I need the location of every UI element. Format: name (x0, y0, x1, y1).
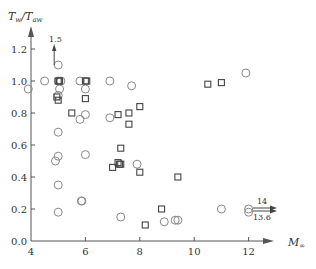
arrow-up-icon (52, 44, 56, 51)
x-tick-label: 6 (82, 246, 88, 257)
circle-marker (54, 128, 62, 136)
x-axis (31, 238, 274, 244)
circle-marker (106, 114, 114, 122)
y-tick-label: 0.8 (11, 108, 27, 119)
circle-marker (242, 69, 250, 77)
square-marker (118, 145, 124, 151)
y-axis-arrow-icon (28, 26, 34, 37)
circle-marker (128, 82, 136, 90)
circle-marker (81, 85, 89, 93)
circle-marker (133, 160, 141, 168)
x-tick-label: 4 (28, 246, 34, 257)
y-tick-label: 0.4 (11, 172, 27, 183)
y-tick-label: 0.2 (11, 204, 27, 215)
square-marker (69, 110, 75, 116)
circle-marker (51, 157, 59, 165)
square-marker (126, 121, 132, 127)
scatter-chart: 0.00.20.40.60.81.01.2 4681012 Tw/Taw M∞ … (0, 0, 316, 269)
x-tick-label: 10 (188, 246, 201, 257)
circle-marker (54, 152, 62, 160)
circle-marker (106, 77, 114, 85)
circle-marker (54, 208, 62, 216)
square-marker (218, 80, 224, 86)
square-marker (126, 110, 132, 116)
annotation-1-5: 1.5 (49, 35, 62, 44)
x-tick-label: 8 (137, 246, 143, 257)
circle-marker (117, 213, 125, 221)
x-axis-arrow-icon (263, 238, 274, 244)
annotation-right-arrows: 14 13.6 (253, 197, 277, 222)
x-ticks: 4681012 (28, 237, 255, 257)
y-tick-label: 0.6 (11, 140, 27, 151)
square-marker (142, 222, 148, 228)
annotation-13-6: 13.6 (253, 213, 271, 222)
annotation-14: 14 (257, 197, 267, 206)
square-marker (175, 174, 181, 180)
square-marker (137, 104, 143, 110)
y-tick-label: 1.2 (11, 44, 27, 55)
x-axis-title: M∞ (287, 236, 305, 250)
square-marker (82, 96, 88, 102)
x-tick-label: 12 (242, 246, 255, 257)
y-axis-title: Tw/Taw (8, 10, 43, 24)
circle-marker (41, 77, 49, 85)
square-marker (115, 112, 121, 118)
circle-marker (76, 115, 84, 123)
square-marker (159, 206, 165, 212)
square-marker (205, 81, 211, 87)
annotation-up-arrow: 1.5 (49, 35, 62, 65)
circle-marker (78, 197, 86, 205)
y-tick-label: 0.0 (11, 236, 27, 247)
y-tick-label: 1.0 (11, 76, 27, 87)
square-marker (137, 169, 143, 175)
circle-marker (217, 205, 225, 213)
circle-marker (81, 111, 89, 119)
data-points (24, 61, 252, 228)
circle-marker (81, 151, 89, 159)
circle-marker (160, 218, 168, 226)
circle-marker (54, 181, 62, 189)
circle-marker (54, 61, 62, 69)
